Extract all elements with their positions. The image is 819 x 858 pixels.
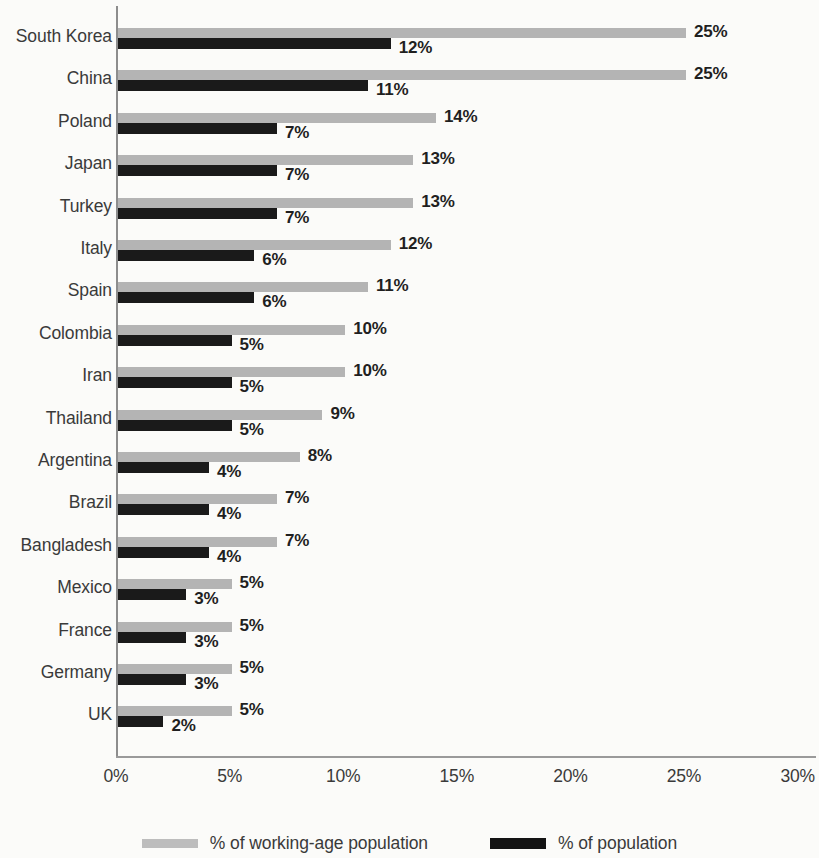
legend-item: % of working-age population	[142, 833, 428, 853]
bar-working-age-population	[118, 579, 232, 589]
bar-population	[118, 547, 209, 558]
bar-value-label-working-age-population: 25%	[694, 23, 727, 40]
bar-row: Iran10%5%	[0, 357, 819, 399]
bar-working-age-population	[118, 410, 322, 420]
bar-working-age-population	[118, 494, 277, 504]
category-label: Italy	[0, 238, 112, 258]
bar-row: Germany5%3%	[0, 654, 819, 696]
legend-label: % of population	[558, 833, 677, 853]
bar-value-label-working-age-population: 25%	[694, 65, 727, 82]
bar-value-label-population: 5%	[240, 378, 264, 395]
bar-value-label-population: 12%	[399, 39, 432, 56]
bar-value-label-population: 7%	[285, 166, 309, 183]
bar-row: China25%11%	[0, 60, 819, 102]
bar-working-age-population	[118, 70, 686, 80]
bar-value-label-working-age-population: 13%	[421, 193, 454, 210]
bar-value-label-working-age-population: 11%	[376, 277, 409, 294]
bar-population	[118, 165, 277, 176]
category-label: Bangladesh	[0, 535, 112, 555]
bar-value-label-population: 7%	[285, 209, 309, 226]
bar-row: Italy12%6%	[0, 230, 819, 272]
bar-chart: South Korea25%12%China25%11%Poland14%7%J…	[0, 0, 819, 858]
bar-value-label-working-age-population: 5%	[240, 701, 264, 718]
bar-row: Argentina8%4%	[0, 442, 819, 484]
bar-value-label-population: 3%	[194, 675, 218, 692]
bar-value-label-population: 2%	[171, 717, 195, 734]
bar-population	[118, 80, 368, 91]
category-label: France	[0, 620, 112, 640]
bar-row: France5%3%	[0, 612, 819, 654]
category-label: Brazil	[0, 492, 112, 512]
bar-working-age-population	[118, 664, 232, 674]
bar-value-label-population: 5%	[240, 336, 264, 353]
category-label: Poland	[0, 111, 112, 131]
value-axis-line	[116, 756, 816, 758]
plot-area: South Korea25%12%China25%11%Poland14%7%J…	[0, 0, 819, 760]
bar-working-age-population	[118, 155, 413, 165]
bar-population	[118, 462, 209, 473]
category-label: Argentina	[0, 450, 112, 470]
bar-value-label-working-age-population: 5%	[240, 574, 264, 591]
x-axis-tick-label: 30%	[758, 765, 819, 787]
bar-value-label-population: 4%	[217, 505, 241, 522]
bar-value-label-population: 6%	[262, 293, 286, 310]
x-axis-tick-label: 5%	[190, 765, 270, 787]
bar-row: UK5%2%	[0, 696, 819, 738]
bar-value-label-working-age-population: 7%	[285, 489, 309, 506]
bar-row: Thailand9%5%	[0, 400, 819, 442]
bar-population	[118, 377, 232, 388]
bar-value-label-working-age-population: 13%	[421, 150, 454, 167]
category-label: Colombia	[0, 323, 112, 343]
category-label: Thailand	[0, 408, 112, 428]
bar-population	[118, 504, 209, 515]
bar-population	[118, 292, 254, 303]
x-axis-tick-label: 0%	[76, 765, 156, 787]
category-label: Turkey	[0, 196, 112, 216]
bar-working-age-population	[118, 325, 345, 335]
bar-population	[118, 208, 277, 219]
bar-value-label-working-age-population: 9%	[330, 405, 354, 422]
bar-working-age-population	[118, 198, 413, 208]
bar-value-label-population: 4%	[217, 463, 241, 480]
bar-working-age-population	[118, 452, 300, 462]
legend-item: % of population	[490, 833, 677, 853]
category-label: China	[0, 68, 112, 88]
bar-row: Bangladesh7%4%	[0, 527, 819, 569]
bar-value-label-working-age-population: 8%	[308, 447, 332, 464]
bar-value-label-working-age-population: 14%	[444, 108, 477, 125]
bar-row: South Korea25%12%	[0, 18, 819, 60]
bar-value-label-population: 4%	[217, 548, 241, 565]
x-axis-tick-label: 10%	[303, 765, 383, 787]
bar-value-label-working-age-population: 5%	[240, 617, 264, 634]
bar-working-age-population	[118, 28, 686, 38]
category-label: Japan	[0, 153, 112, 173]
bar-working-age-population	[118, 706, 232, 716]
category-label: Germany	[0, 662, 112, 682]
x-axis-tick-label: 25%	[644, 765, 724, 787]
bar-value-label-population: 5%	[240, 421, 264, 438]
bar-population	[118, 250, 254, 261]
legend-swatch-pop	[490, 838, 546, 849]
bar-working-age-population	[118, 113, 436, 123]
bar-working-age-population	[118, 622, 232, 632]
bar-working-age-population	[118, 240, 391, 250]
bar-row: Japan13%7%	[0, 145, 819, 187]
bar-value-label-working-age-population: 5%	[240, 659, 264, 676]
bar-population	[118, 123, 277, 134]
bar-working-age-population	[118, 282, 368, 292]
bar-population	[118, 38, 391, 49]
bar-value-label-population: 6%	[262, 251, 286, 268]
bar-population	[118, 632, 186, 643]
bar-row: Turkey13%7%	[0, 188, 819, 230]
bar-value-label-population: 11%	[376, 81, 409, 98]
x-axis-tick-label: 20%	[530, 765, 610, 787]
bar-population	[118, 716, 163, 727]
bar-working-age-population	[118, 367, 345, 377]
chart-legend: % of working-age population% of populati…	[0, 828, 819, 858]
bar-row: Brazil7%4%	[0, 484, 819, 526]
bar-value-label-working-age-population: 7%	[285, 532, 309, 549]
bar-value-label-population: 7%	[285, 124, 309, 141]
bar-value-label-population: 3%	[194, 590, 218, 607]
category-label: South Korea	[0, 26, 112, 46]
bar-row: Mexico5%3%	[0, 569, 819, 611]
